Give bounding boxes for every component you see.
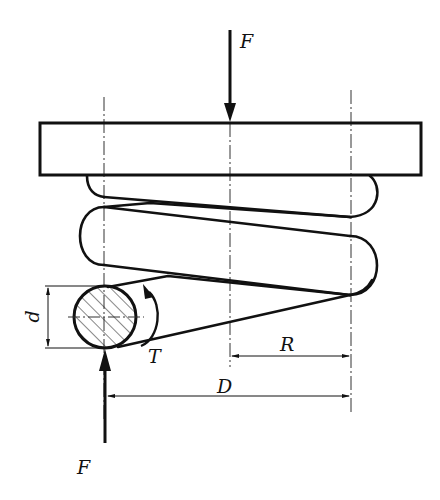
spring-drawing: [0, 0, 440, 500]
torque-label: T: [148, 347, 161, 366]
force-bottom-label: F: [77, 458, 90, 477]
torque-arrow: [141, 284, 158, 346]
top-force-arrow: [224, 30, 236, 122]
mean-radius-label: R: [280, 335, 294, 354]
mean-diameter-label: D: [217, 377, 232, 396]
center-lines: [104, 90, 351, 420]
force-top-label: F: [240, 32, 253, 51]
wire-cross-section: [68, 286, 144, 348]
wire-diameter-label: d: [23, 310, 42, 322]
